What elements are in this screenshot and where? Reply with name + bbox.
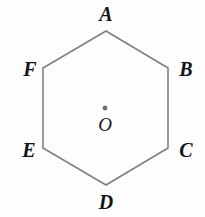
vertex-label-a: A bbox=[99, 4, 112, 24]
vertex-label-e: E bbox=[22, 140, 35, 160]
vertex-label-c: C bbox=[179, 140, 192, 160]
vertex-label-b: B bbox=[179, 59, 192, 79]
vertex-label-d: D bbox=[99, 192, 113, 212]
hexagon-figure-canvas: A B C D E F O bbox=[0, 0, 205, 217]
center-point-dot bbox=[103, 106, 108, 111]
vertex-label-f: F bbox=[23, 59, 36, 79]
hexagon-diagram-svg bbox=[0, 0, 205, 217]
center-point-label-o: O bbox=[98, 115, 112, 134]
